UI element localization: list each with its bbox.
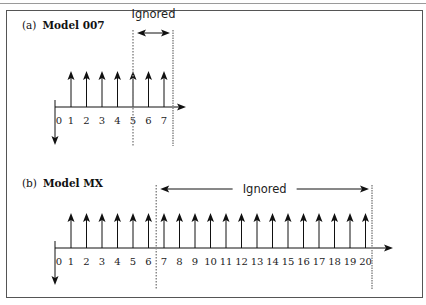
panel-b-tick-label: 12	[235, 256, 248, 267]
panel-b-tick-label: 10	[204, 256, 217, 267]
panel-a-tick-label: 4	[114, 115, 120, 126]
panel-b-tick-label: 5	[130, 256, 136, 267]
panel-b-tick-label: 17	[313, 256, 326, 267]
panel-b-tick-label: 16	[297, 256, 310, 267]
panel-a-tick-label: 1	[68, 115, 74, 126]
timeline-diagram: 01234567Ignored0123456789101112131415161…	[0, 0, 426, 305]
panel-b-tick-label: 2	[83, 256, 89, 267]
panel-a-ignored-label: Ignored	[132, 7, 176, 21]
panel-b-tick-label: 6	[145, 256, 151, 267]
panel-b-tick-label: 14	[266, 256, 279, 267]
panel-b-tick-label: 18	[328, 256, 341, 267]
panel-a-tick-label: 6	[145, 115, 151, 126]
panel-b-tick-label: 15	[282, 256, 295, 267]
panel-b-tick-label: 4	[114, 256, 120, 267]
panel-b-tick-label: 8	[176, 256, 182, 267]
panel-a-tick-label: 3	[99, 115, 105, 126]
panel-b-tick-label: 9	[192, 256, 198, 267]
panel-b-tick-label: 20	[359, 256, 372, 267]
panel-b-tick-label: 19	[344, 256, 357, 267]
panel-b-tick-label: 3	[99, 256, 105, 267]
panel-b-ignored-label: Ignored	[243, 182, 287, 196]
panel-a-tick-label: 2	[83, 115, 89, 126]
panel-b-tick-label: 1	[68, 256, 74, 267]
panel-b-tick-label: 7	[161, 256, 167, 267]
panel-b-tick-label: 11	[220, 256, 233, 267]
panel-a-tick-label: 0	[56, 115, 62, 126]
panel-b-tick-label: 13	[251, 256, 264, 267]
panel-a-tick-label: 7	[161, 115, 167, 126]
panel-b-tick-label: 0	[56, 256, 62, 267]
